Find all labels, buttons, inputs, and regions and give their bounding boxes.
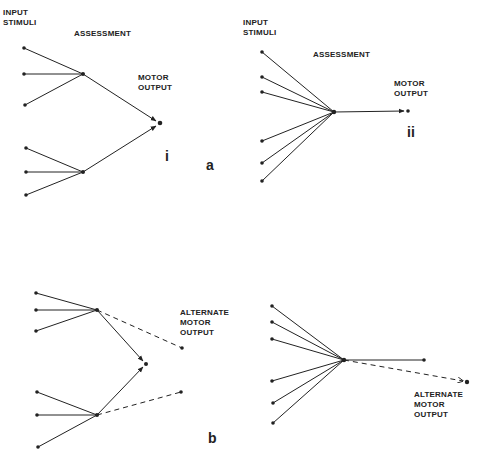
diagram-canvas <box>0 0 480 464</box>
panel-letter-a: a <box>206 157 214 173</box>
assessment-label-a-ii: ASSESSMENT <box>313 50 370 60</box>
assessment-label-a-i: ASSESSMENT <box>74 29 131 39</box>
diagram-b-left <box>36 293 182 447</box>
motor-output-label-a-i: MOTOR OUTPUT <box>138 73 172 93</box>
panel-letter-b: b <box>208 430 217 446</box>
diagram-a-i <box>24 48 156 195</box>
numeral-i: i <box>165 148 169 164</box>
alternate-motor-output-label-b-right: ALTERNATE MOTOR OUTPUT <box>414 390 463 420</box>
nodes <box>22 46 469 449</box>
diagram-a-ii <box>262 52 404 181</box>
input-stimuli-label-a-ii: INPUT STIMULI <box>243 18 276 38</box>
numeral-ii: ii <box>407 124 415 140</box>
input-stimuli-label-a-i: INPUT STIMULI <box>3 8 36 28</box>
alternate-motor-output-label-b-left: ALTERNATE MOTOR OUTPUT <box>180 308 229 338</box>
motor-output-label-a-ii: MOTOR OUTPUT <box>394 79 428 99</box>
